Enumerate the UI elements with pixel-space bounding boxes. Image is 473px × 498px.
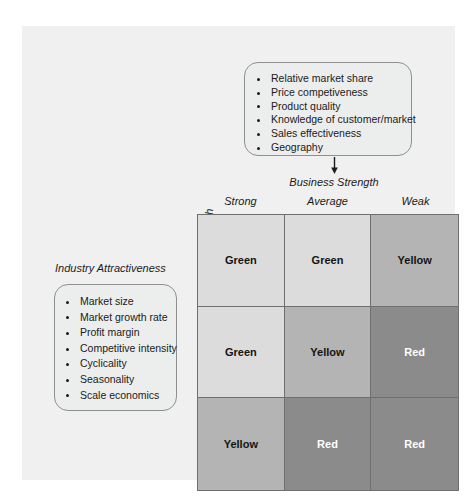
diagram-panel: Relative market share Price competivenes… bbox=[22, 26, 455, 480]
matrix-cell[interactable]: Yellow bbox=[371, 215, 458, 307]
list-item: Seasonality bbox=[66, 372, 168, 388]
list-item: Sales effectiveness bbox=[257, 127, 401, 141]
matrix-cell-label: Red bbox=[404, 438, 425, 450]
matrix-cell[interactable]: Yellow bbox=[198, 398, 285, 490]
list-item: Relative market share bbox=[257, 72, 401, 86]
list-item-label: Relative market share bbox=[257, 72, 373, 86]
list-item-label: Knowledge of customer/market bbox=[257, 113, 416, 127]
matrix-cell-label: Red bbox=[404, 346, 425, 358]
list-item-label: Scale economics bbox=[66, 388, 159, 404]
list-item: Geography bbox=[257, 141, 401, 155]
list-item-label: Product quality bbox=[257, 100, 340, 114]
bullet-icon bbox=[66, 332, 69, 335]
industry-attractiveness-factors-box: Market size Market growth rate Profit ma… bbox=[54, 284, 177, 411]
list-item: Market size bbox=[66, 294, 168, 310]
bullet-icon bbox=[257, 147, 260, 150]
list-item: Scale economics bbox=[66, 388, 168, 404]
matrix-cell[interactable]: Green bbox=[198, 215, 285, 307]
bullet-icon bbox=[66, 301, 69, 304]
matrix-column-header-weak: Weak bbox=[372, 195, 459, 207]
list-item-label: Sales effectiveness bbox=[257, 127, 361, 141]
list-item: Profit margin bbox=[66, 325, 168, 341]
business-strength-factors-box: Relative market share Price competivenes… bbox=[244, 62, 412, 156]
matrix-cell-label: Yellow bbox=[398, 254, 432, 266]
list-item: Price competiveness bbox=[257, 86, 401, 100]
ge-mckinsey-matrix: Green Green Yellow Green Yellow Red Yell… bbox=[197, 214, 459, 491]
business-strength-factors-list: Relative market share Price competivenes… bbox=[257, 72, 401, 155]
matrix-cell-label: Green bbox=[312, 254, 344, 266]
matrix-cell-label: Yellow bbox=[310, 346, 344, 358]
matrix-column-header-average: Average bbox=[284, 195, 371, 207]
business-strength-axis-label: Business Strength bbox=[254, 176, 414, 188]
list-item: Market growth rate bbox=[66, 310, 168, 326]
list-item: Cyclicality bbox=[66, 356, 168, 372]
matrix-cell[interactable]: Green bbox=[285, 215, 372, 307]
list-item-label: Seasonality bbox=[66, 372, 134, 388]
list-item: Knowledge of customer/market bbox=[257, 113, 401, 127]
matrix-cell[interactable]: Yellow bbox=[285, 307, 372, 399]
list-item: Product quality bbox=[257, 100, 401, 114]
matrix-cell-label: Green bbox=[225, 254, 257, 266]
down-arrow-icon bbox=[330, 157, 339, 174]
bullet-icon bbox=[66, 379, 69, 382]
industry-attractiveness-axis-label: Industry Attractiveness bbox=[55, 262, 166, 274]
industry-attractiveness-factors-list: Market size Market growth rate Profit ma… bbox=[66, 294, 168, 403]
list-item-label: Competitive intensity bbox=[66, 341, 177, 357]
matrix-cell[interactable]: Red bbox=[285, 398, 372, 490]
matrix-cell-label: Green bbox=[225, 346, 257, 358]
list-item-label: Market growth rate bbox=[66, 310, 168, 326]
list-item-label: Profit margin bbox=[66, 325, 140, 341]
list-item-label: Market size bbox=[66, 294, 134, 310]
bullet-icon bbox=[66, 348, 69, 351]
list-item: Competitive intensity bbox=[66, 341, 168, 357]
matrix-cell-label: Yellow bbox=[224, 438, 258, 450]
matrix-cell[interactable]: Red bbox=[371, 398, 458, 490]
bullet-icon bbox=[257, 78, 260, 81]
list-item-label: Cyclicality bbox=[66, 356, 127, 372]
matrix-cell-label: Red bbox=[317, 438, 338, 450]
bullet-icon bbox=[257, 92, 260, 95]
list-item-label: Geography bbox=[257, 141, 323, 155]
matrix-cell[interactable]: Red bbox=[371, 307, 458, 399]
list-item-label: Price competiveness bbox=[257, 86, 368, 100]
matrix-cell[interactable]: Green bbox=[198, 307, 285, 399]
